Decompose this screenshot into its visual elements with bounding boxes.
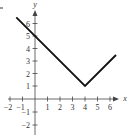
x-tick-label: 3: [71, 103, 75, 112]
y-axis: 6 5 4 3 2 1 −1 −2 y: [21, 0, 37, 135]
x-tick-label: 1: [46, 103, 50, 112]
y-tick-label: −2: [21, 121, 30, 130]
x-tick-label: 2: [58, 103, 62, 112]
y-tick-label: 1: [26, 82, 30, 91]
graph: −2 −1 1 2 3 4 5 6 x 6 5 4 3 2 1 −1 −2 y: [0, 0, 134, 139]
x-axis-label: x: [122, 94, 127, 103]
x-tick-label: 4: [83, 103, 87, 112]
y-tick-label: 5: [26, 32, 30, 41]
y-tick-label: 3: [26, 57, 30, 66]
y-tick-label: 4: [26, 45, 30, 54]
x-axis-arrow-icon: [113, 97, 119, 102]
y-axis-arrow-icon: [33, 10, 38, 16]
y-axis-label: y: [32, 0, 37, 9]
function-line: [16, 17, 116, 86]
x-tick-label: −2: [4, 103, 13, 112]
x-tick-label: 6: [108, 103, 112, 112]
y-tick-label: −1: [21, 108, 30, 117]
x-tick-label: 5: [96, 103, 100, 112]
y-tick-label: 2: [26, 70, 30, 79]
